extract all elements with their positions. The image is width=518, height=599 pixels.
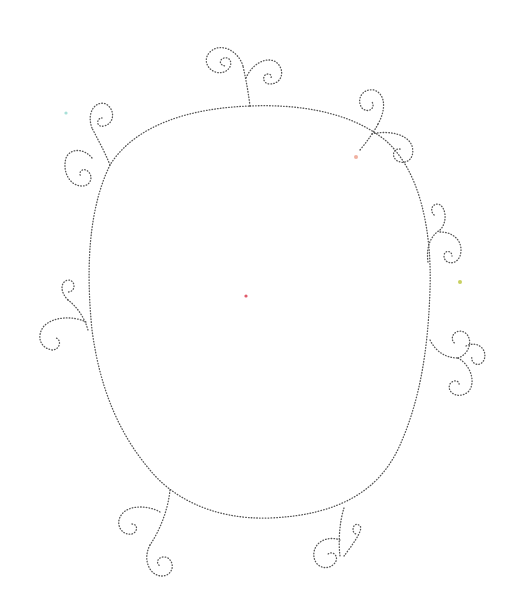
flourish-top [206,48,281,106]
speck-red [244,294,247,297]
flourish-bottom-right [314,508,361,568]
flourish-top-right [360,90,413,163]
oval-frame [89,106,430,518]
speck-yellow [458,280,462,284]
flourish-right-lower [430,331,485,395]
flourish-left [40,280,88,350]
flourish-right-upper [428,204,462,263]
dotted-oval-frame-illustration [0,0,518,599]
speck-peach [354,155,358,159]
speck-teal [64,111,67,114]
flourish-bottom-left [119,490,173,576]
flourish-top-left [65,103,113,186]
